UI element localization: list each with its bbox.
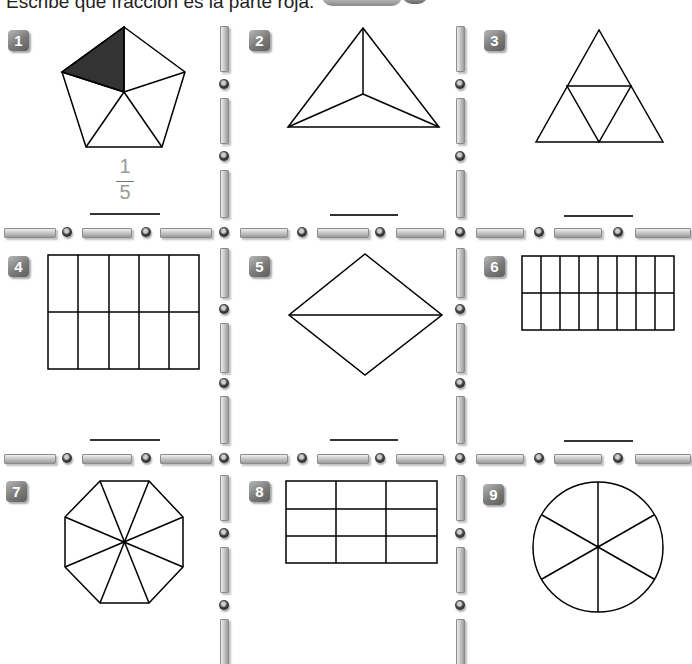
circle-figure	[0, 0, 692, 664]
